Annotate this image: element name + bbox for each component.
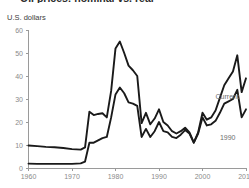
series-paths [29,42,247,164]
y-tick-label: 50 [7,50,23,57]
plot-area [0,0,249,188]
chart-container: Oil prices: nominal vs. real U.S. dollar… [0,0,249,188]
y-tick-label: 30 [7,96,23,103]
x-tick-label: 2010 [233,173,249,180]
series-line-1990 [29,42,247,150]
y-tick-label: 0 [7,165,23,172]
x-tick-label: 1960 [16,173,42,180]
x-tick-label: 1970 [59,173,85,180]
series-label-1990: 1990 [220,134,236,141]
x-tick-label: 1980 [103,173,129,180]
tick-marks [26,30,246,171]
x-tick-label: 2000 [190,173,216,180]
y-tick-label: 20 [7,119,23,126]
series-label-current: Current [216,93,239,100]
y-tick-label: 10 [7,142,23,149]
x-tick-label: 1990 [146,173,172,180]
y-tick-label: 40 [7,73,23,80]
y-tick-label: 60 [7,27,23,34]
